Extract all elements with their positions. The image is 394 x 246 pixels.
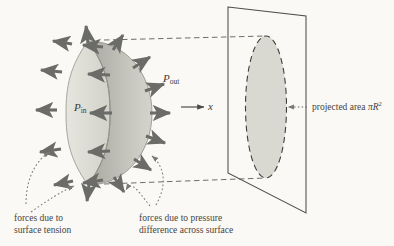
caption-surface-tension-line1: forces due to bbox=[14, 213, 71, 225]
label-p-out: Pout bbox=[163, 72, 179, 85]
caption-pressure-difference-line2: difference across surface bbox=[139, 225, 233, 237]
label-projected-area: projected area πR2 bbox=[312, 100, 382, 114]
caption-surface-tension: forces due to surface tension bbox=[14, 213, 71, 236]
caption-pressure-difference: forces due to pressure difference across… bbox=[139, 213, 233, 236]
caption-pressure-difference-line1: forces due to pressure bbox=[139, 213, 233, 225]
label-x-axis: x bbox=[208, 100, 213, 113]
figure-canvas: Pin Pout x projected area πR2 forces due… bbox=[0, 0, 394, 246]
caption-surface-tension-line2: surface tension bbox=[14, 225, 71, 237]
label-p-in: Pin bbox=[74, 101, 87, 114]
diagram-svg bbox=[0, 0, 394, 246]
projected-area-ellipse bbox=[246, 36, 287, 178]
